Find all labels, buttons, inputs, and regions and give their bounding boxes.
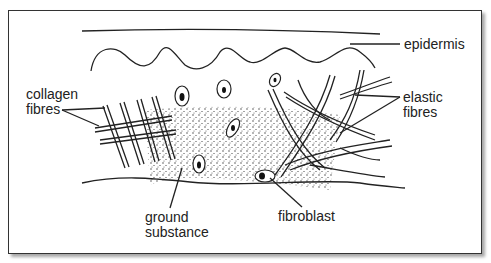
label-collagen-line1: collagen [26,86,78,102]
epidermis-surface-line [82,29,380,34]
connective-tissue-diagram: epidermis collagen fibres elastic fibres… [0,0,491,263]
label-collagen-line2: fibres [26,101,60,117]
label-ground-line1: ground [145,209,189,225]
epidermis-wavy-boundary [91,48,375,71]
label-epidermis: epidermis [404,36,465,52]
label-ground-line2: substance [145,224,209,240]
label-fibroblast: fibroblast [278,208,335,224]
label-elastic-line1: elastic [403,89,443,105]
label-elastic-line2: fibres [403,104,437,120]
